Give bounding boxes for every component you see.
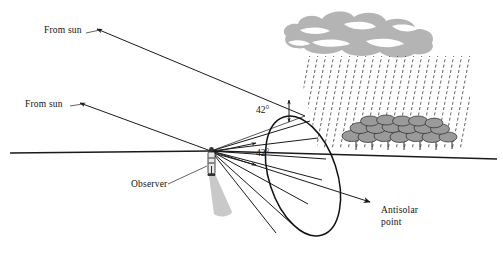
observer-leader-line [168,166,207,184]
label-antisolar-line1: Antisolar [381,205,419,215]
tree-line [342,115,457,150]
label-from-sun-lower: From sun [25,99,63,109]
label-from-sun-upper: From sun [44,25,82,35]
sun-ray-upper [86,29,305,116]
observer-shadow [209,176,232,216]
horizon-line [10,151,497,159]
label-antisolar-line2: point [381,217,402,227]
rainbow-circle-ellipse [252,107,355,246]
rain-cloud [284,12,433,58]
label-angle-lower: 42° [256,148,270,158]
label-observer: Observer [131,179,168,189]
sun-ray-lower [70,103,211,151]
rainbow-geometry-diagram: From sun From sun 42° 42° Observer Antis… [0,0,503,257]
label-angle-upper: 42° [256,105,270,115]
diagram-canvas: From sun From sun 42° 42° Observer Antis… [0,0,503,257]
